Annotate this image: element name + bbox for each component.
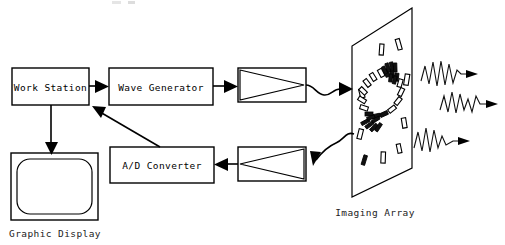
system-block-diagram: Work Station Wave Generator A/D Converte… bbox=[0, 0, 505, 245]
output-waveform-middle bbox=[440, 92, 498, 113]
flow-adconverter-to-workstation bbox=[92, 106, 160, 147]
diagram-canvas: Work Station Wave Generator A/D Converte… bbox=[0, 0, 505, 245]
flow-amplifier-to-array bbox=[306, 82, 353, 96]
caption-imaging-array: Imaging Array bbox=[335, 207, 415, 218]
scan-artifact bbox=[112, 1, 135, 4]
flow-array-to-amplifier bbox=[310, 133, 354, 166]
output-waveform-bottom bbox=[414, 128, 470, 152]
transducer-element-ring bbox=[358, 68, 405, 118]
transmit-amplifier-symbol[interactable] bbox=[238, 68, 306, 102]
block-label-wave-generator: Wave Generator bbox=[118, 82, 204, 93]
imaging-array-plane[interactable] bbox=[352, 8, 412, 197]
receive-amplifier-symbol[interactable] bbox=[238, 147, 306, 181]
flow-workstation-to-wavegenerator bbox=[89, 80, 109, 93]
block-label-ad-converter: A/D Converter bbox=[122, 160, 202, 171]
output-waveform-top bbox=[421, 61, 478, 86]
flow-amplifier-to-adconverter bbox=[214, 158, 238, 171]
block-label-work-station: Work Station bbox=[14, 82, 87, 93]
caption-graphic-display: Graphic Display bbox=[9, 228, 101, 239]
flow-wavegenerator-to-amplifier bbox=[213, 80, 238, 93]
flow-workstation-to-display bbox=[45, 105, 58, 155]
graphic-display-monitor[interactable] bbox=[11, 153, 98, 220]
